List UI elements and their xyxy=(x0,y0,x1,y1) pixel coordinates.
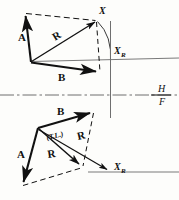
fold-line-label-f: F xyxy=(158,96,166,107)
label-point-xr-top: X xyxy=(113,45,121,56)
label-vector-b-front: B xyxy=(57,105,65,117)
label-point-x: X xyxy=(98,5,106,16)
figure-root: A R B X X R H F B A (T.L.) R R xyxy=(0,0,179,200)
label-point-xr-top-subscript: R xyxy=(120,51,126,59)
fold-line-label-h: H xyxy=(157,83,166,94)
label-point-xr-front: X xyxy=(113,161,121,172)
label-point-xr-front-subscript: R xyxy=(120,167,126,175)
label-vector-a-front: A xyxy=(17,148,25,160)
label-vector-a-top: A xyxy=(18,31,26,43)
vector-diagram: A R B X X R H F B A (T.L.) R R xyxy=(0,0,179,200)
label-vector-b-top: B xyxy=(58,71,66,83)
